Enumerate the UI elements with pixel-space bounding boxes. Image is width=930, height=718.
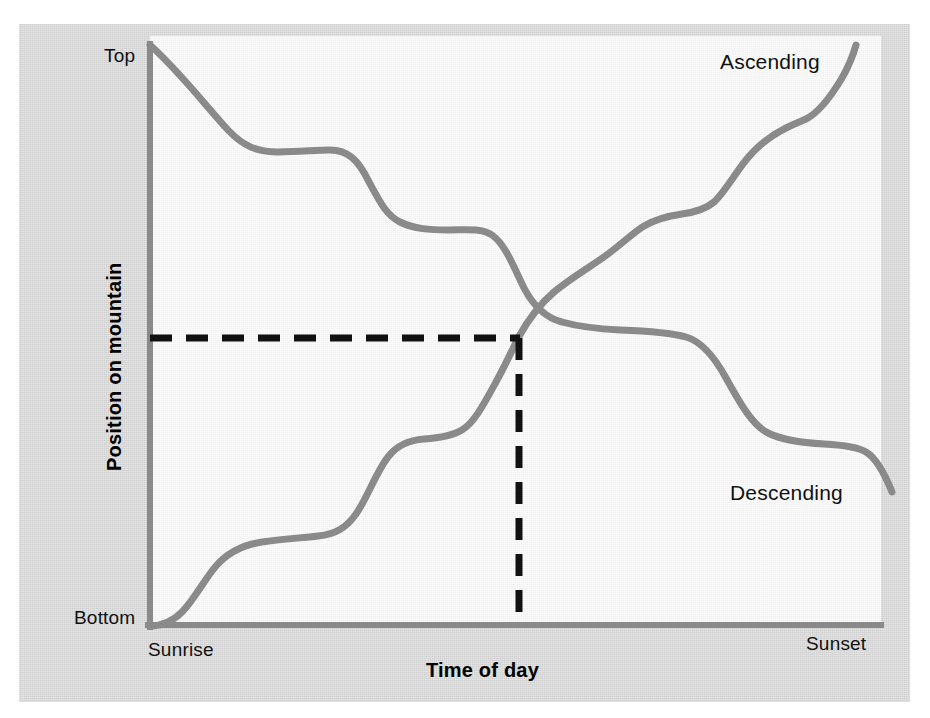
- y-tick-top: Top: [104, 45, 135, 67]
- x-axis-title: Time of day: [426, 659, 539, 682]
- y-tick-bottom: Bottom: [74, 607, 135, 629]
- chart-canvas: [0, 0, 930, 718]
- x-tick-sunset: Sunset: [806, 633, 866, 655]
- figure-root: Top Bottom Sunrise Sunset Ascending Desc…: [0, 0, 930, 718]
- descending-label: Descending: [730, 481, 843, 505]
- ascending-curve: [150, 45, 856, 626]
- ascending-label: Ascending: [720, 50, 820, 74]
- x-tick-sunrise: Sunrise: [148, 639, 214, 661]
- y-axis-title: Position on mountain: [103, 263, 126, 471]
